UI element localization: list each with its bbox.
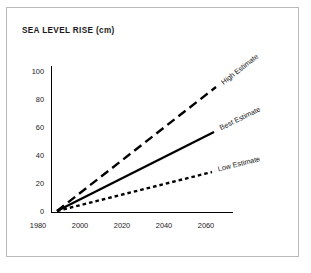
x-tick-label-2000: 2000 (72, 221, 88, 230)
y-tick-label-0: 0 (26, 207, 44, 216)
x-tick-label-2040: 2040 (156, 221, 172, 230)
x-tick-label-1980: 1980 (30, 221, 46, 230)
y-tick-label-20: 20 (26, 179, 44, 188)
series-line-high-estimate (57, 87, 216, 211)
y-tick-label-100: 100 (26, 67, 44, 76)
x-tick-label-2020: 2020 (114, 221, 130, 230)
figure-canvas: SEA LEVEL RISE (cm) 100 80 60 40 20 0 19… (0, 0, 311, 273)
y-tick-label-40: 40 (26, 151, 44, 160)
series-line-best-estimate (57, 132, 214, 211)
y-tick-label-80: 80 (26, 95, 44, 104)
chart-plot-area (0, 0, 311, 273)
x-tick-label-2060: 2060 (198, 221, 214, 230)
y-tick-label-60: 60 (26, 123, 44, 132)
